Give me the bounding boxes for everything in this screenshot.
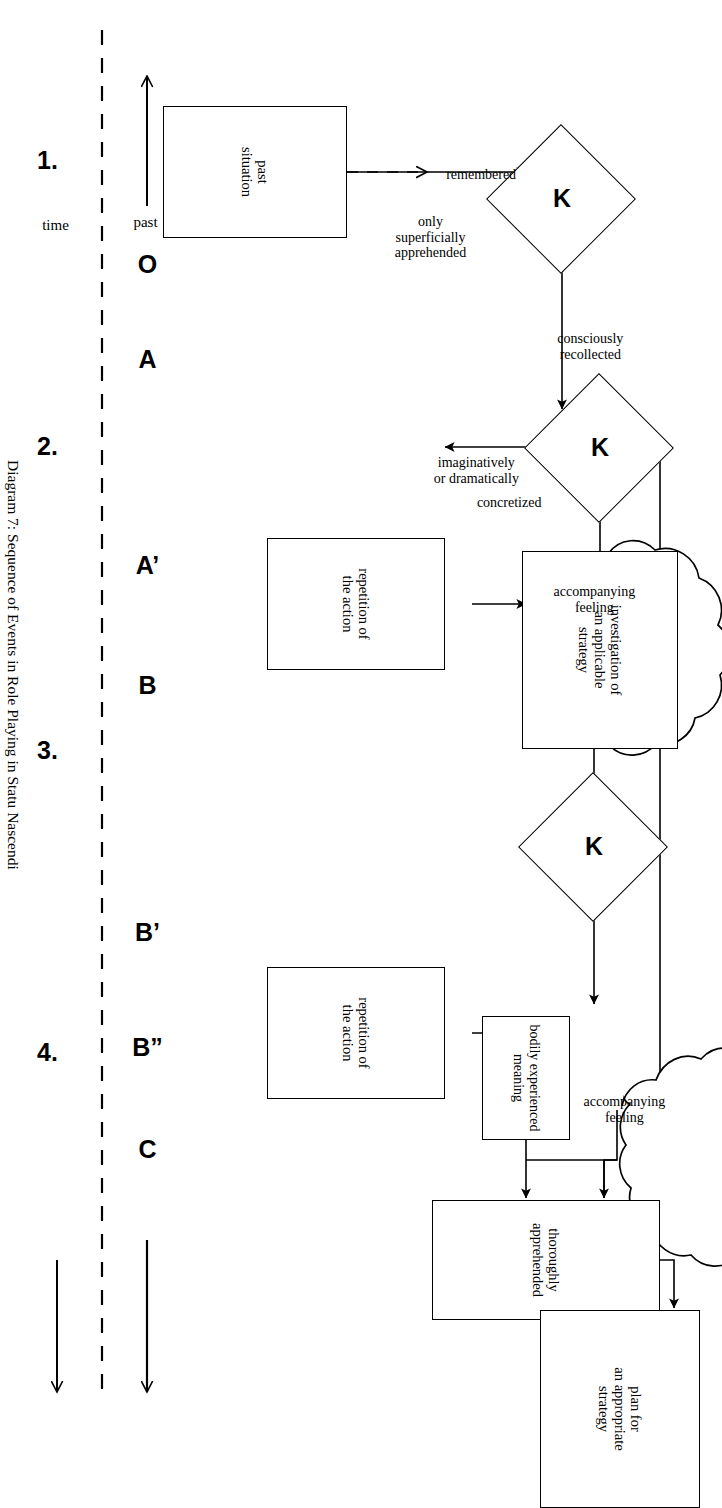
stage-letter-b-double-prime: B” xyxy=(132,1033,163,1062)
stage-letter-b-prime: B’ xyxy=(135,918,160,947)
box-repetition-of-the-action-2: repetition of the action xyxy=(267,967,445,1099)
box-label: repetition of the action xyxy=(340,997,372,1068)
diamond-k-upper-label: K xyxy=(548,395,652,499)
row-number-1: 1. xyxy=(37,146,58,175)
box-label: plan for an appropriate strategy xyxy=(596,1367,645,1450)
cloud-lower-label: accompanying feeling xyxy=(539,584,649,615)
box-thoroughly-apprehended: thoroughly apprehended xyxy=(432,1200,660,1320)
edge-label-concretized: concretized xyxy=(472,495,546,511)
figure-caption: Diagram 7: Sequence of Events in Role Pl… xyxy=(4,460,22,870)
stage-letter-b: B xyxy=(138,671,156,700)
stage-letter-a-prime: A’ xyxy=(136,551,160,580)
row-number-3: 3. xyxy=(37,736,58,765)
diamond-k-lower-label: K xyxy=(510,146,614,250)
box-label: past situation xyxy=(239,147,271,197)
row-number-2: 2. xyxy=(37,432,58,461)
edge-label-only-superficially-apprehended: only superficially apprehended xyxy=(370,214,490,261)
stage-letter-o: O xyxy=(138,250,157,279)
stage-letter-c: C xyxy=(138,1135,156,1164)
box-label: investigation of an applicable strategy xyxy=(576,605,625,696)
cloud-upper-label: accompanying feeling xyxy=(569,1094,679,1125)
diamond-k-right-label: K xyxy=(542,794,646,898)
box-repetition-of-the-action-1: repetition of the action xyxy=(267,538,445,670)
row-number-4: 4. xyxy=(37,1038,58,1067)
axis-label-time: time xyxy=(42,217,69,234)
box-investigation-of-applicable-strategy: investigation of an applicable strategy xyxy=(522,551,678,749)
stage-letter-a: A xyxy=(138,345,156,374)
box-bodily-experienced-meaning: bodily experienced meaning xyxy=(482,1016,570,1140)
box-label: thoroughly apprehended xyxy=(530,1223,562,1297)
edge-label-consciously-recollected: consciously recollected xyxy=(531,331,649,362)
box-label: repetition of the action xyxy=(340,568,372,639)
edge-label-remembered: remembered xyxy=(446,167,506,183)
edge-label-imaginatively-or-dramatically: imaginatively or dramatically xyxy=(415,455,537,486)
box-plan-for-appropriate-strategy: plan for an appropriate strategy xyxy=(540,1310,700,1508)
box-label: bodily experienced meaning xyxy=(510,1025,541,1132)
axis-label-past: past xyxy=(133,214,157,231)
box-past-situation: past situation xyxy=(163,106,347,238)
